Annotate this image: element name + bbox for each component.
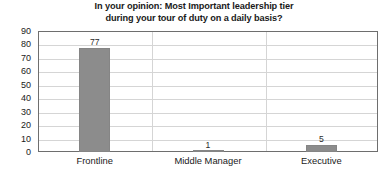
x-axis-tick-label: Executive: [261, 155, 381, 166]
y-axis-tick-label: 40: [0, 93, 34, 103]
plot-area: [38, 31, 378, 152]
x-axis-tick-label: Middle Manager: [148, 155, 268, 166]
gridline-horizontal: [39, 113, 377, 114]
x-axis: FrontlineMiddle ManagerExecutive: [38, 155, 378, 175]
gridline-vertical: [152, 32, 153, 151]
gridline-horizontal: [39, 86, 377, 87]
y-axis-tick-label: 80: [0, 39, 34, 49]
gridline-horizontal: [39, 140, 377, 141]
y-axis: 9080706050403020100: [0, 31, 34, 152]
gridline-horizontal: [39, 59, 377, 60]
gridline-horizontal: [39, 45, 377, 46]
y-axis-tick-label: 10: [0, 134, 34, 144]
y-axis-tick-label: 0: [0, 147, 34, 157]
gridlines: [39, 32, 377, 151]
y-axis-tick-label: 60: [0, 66, 34, 76]
y-axis-tick-label: 30: [0, 107, 34, 117]
gridline-vertical: [266, 32, 267, 151]
y-axis-tick-label: 50: [0, 80, 34, 90]
gridline-horizontal: [39, 72, 377, 73]
chart-title: In your opinion: Most Important leadersh…: [0, 1, 388, 24]
y-axis-tick-label: 90: [0, 26, 34, 36]
chart-title-line-2: during your tour of duty on a daily basi…: [0, 13, 388, 25]
gridline-horizontal: [39, 126, 377, 127]
bar-chart: In your opinion: Most Important leadersh…: [0, 0, 388, 185]
y-axis-tick-label: 20: [0, 120, 34, 130]
y-axis-tick-label: 70: [0, 53, 34, 63]
chart-title-line-1: In your opinion: Most Important leadersh…: [0, 1, 388, 13]
gridline-horizontal: [39, 99, 377, 100]
x-axis-tick-label: Frontline: [35, 155, 155, 166]
